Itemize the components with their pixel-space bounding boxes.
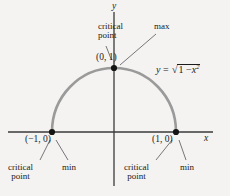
equation-label: y = √1 −x2 [156, 64, 200, 75]
annotation-line-2: point [8, 172, 33, 181]
coordinate-label-apex: (0, 1) [96, 53, 117, 63]
radicand-exponent: 2 [196, 63, 199, 70]
point-apex [111, 65, 117, 71]
coordinate-label-left-endpoint: (−1, 0) [25, 135, 51, 145]
annotation-apex-critical-point: critical point [98, 22, 123, 41]
annotation-line-2: point [98, 31, 123, 40]
annotation-left-critical-point: critical point [8, 163, 33, 182]
x-axis-label: x [204, 134, 208, 144]
radical-symbol: √1 −x2 [171, 64, 200, 75]
annotation-left-min: min [62, 163, 76, 172]
leader-right-min [179, 140, 186, 160]
y-axis-label: y [112, 2, 116, 12]
equation-lhs: y [156, 64, 160, 75]
point-right-endpoint [173, 129, 179, 135]
radicand-first: 1 − [179, 64, 192, 75]
annotation-max: max [154, 22, 170, 31]
annotation-right-min: min [180, 163, 194, 172]
annotation-line-2: point [124, 172, 149, 181]
leader-left-min [56, 140, 68, 160]
leader-max [120, 34, 156, 65]
annotation-right-critical-point: critical point [124, 163, 149, 182]
semicircle-figure: y x critical point max (0, 1) (−1, 0) (1… [0, 0, 230, 196]
equation-equals: = [163, 64, 169, 75]
radicand: 1 −x2 [177, 64, 201, 75]
coordinate-label-right-endpoint: (1, 0) [152, 135, 173, 145]
